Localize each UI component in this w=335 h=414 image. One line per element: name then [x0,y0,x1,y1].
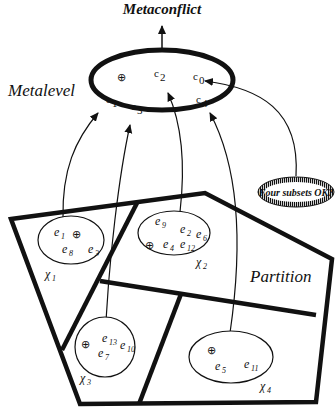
svg-text:8: 8 [69,249,73,258]
svg-text:2: 2 [187,229,191,238]
svg-text:1: 1 [61,232,65,241]
svg-text:10: 10 [127,345,135,354]
svg-text:e: e [244,357,250,371]
svg-text:χ: χ [259,379,266,393]
subset-chi1: ⊕ e1 e8 e3 χ1 [38,216,104,283]
svg-text:c: c [154,67,159,79]
svg-text:4: 4 [202,97,208,109]
partition-label: Partition [249,267,311,286]
svg-text:c: c [196,93,201,105]
svg-text:e: e [180,237,186,251]
svg-text:4: 4 [267,386,271,395]
svg-text:⊕: ⊕ [207,344,216,356]
svg-text:11: 11 [251,364,258,373]
svg-text:0: 0 [199,74,205,86]
svg-text:χ: χ [79,371,86,385]
svg-text:e: e [102,331,108,345]
svg-text:⊕: ⊕ [72,228,81,240]
subset-chi3: ⊕ e13 e10 e7 χ3 [75,317,135,387]
check-node: Four subsets OK? [258,177,334,207]
metalevel-label: Metalevel [7,81,75,100]
edge-check-c0 [205,81,296,176]
svg-text:12: 12 [187,244,195,253]
subset-chi2: e9 e2 e6 ⊕ e4 e12 χ2 [138,211,210,271]
svg-text:χ: χ [44,267,51,281]
edge-chi3-c3 [105,125,130,345]
svg-text:c: c [131,100,136,112]
svg-text:e: e [196,227,202,241]
constraint-c0: c 0 [193,70,205,86]
svg-text:1: 1 [52,274,56,283]
constraint-c2: c 2 [154,67,166,83]
divider-horizontal [100,281,316,315]
svg-text:3: 3 [86,378,91,387]
svg-text:⊕: ⊕ [145,239,154,251]
oplus-icon: ⊕ [117,71,126,83]
svg-text:c: c [106,93,111,105]
svg-text:⊕: ⊕ [81,338,90,350]
svg-text:1: 1 [112,97,118,109]
svg-text:Four subsets OK?: Four subsets OK? [258,187,333,198]
edge-chi1-c1 [63,113,98,218]
svg-text:χ: χ [195,255,202,269]
svg-text:5: 5 [222,366,226,375]
svg-text:e: e [155,214,161,228]
svg-text:4: 4 [170,244,174,253]
subset-chi4: ⊕ e5 e11 χ4 [189,331,273,395]
svg-text:e: e [62,242,68,256]
svg-text:e: e [98,346,104,360]
svg-text:2: 2 [203,262,207,271]
divider-chi3-chi4 [139,294,181,404]
constraint-c1: c 1 [106,93,118,109]
svg-text:e: e [180,222,186,236]
svg-text:e: e [163,237,169,251]
svg-text:e: e [54,225,60,239]
svg-text:9: 9 [162,221,166,230]
svg-text:e: e [120,338,126,352]
svg-text:e: e [88,242,94,256]
svg-text:3: 3 [94,249,99,258]
constraint-c3: c 3 [131,100,143,116]
svg-text:c: c [193,70,198,82]
svg-text:6: 6 [203,234,207,243]
svg-text:e: e [215,359,221,373]
svg-text:13: 13 [109,338,117,347]
diagram-canvas: Metaconflict Metalevel ⊕ c 2 c 0 c 1 c 3… [0,0,335,414]
metaconflict-label: Metaconflict [122,1,202,17]
svg-text:2: 2 [160,71,166,83]
svg-text:3: 3 [137,104,143,116]
